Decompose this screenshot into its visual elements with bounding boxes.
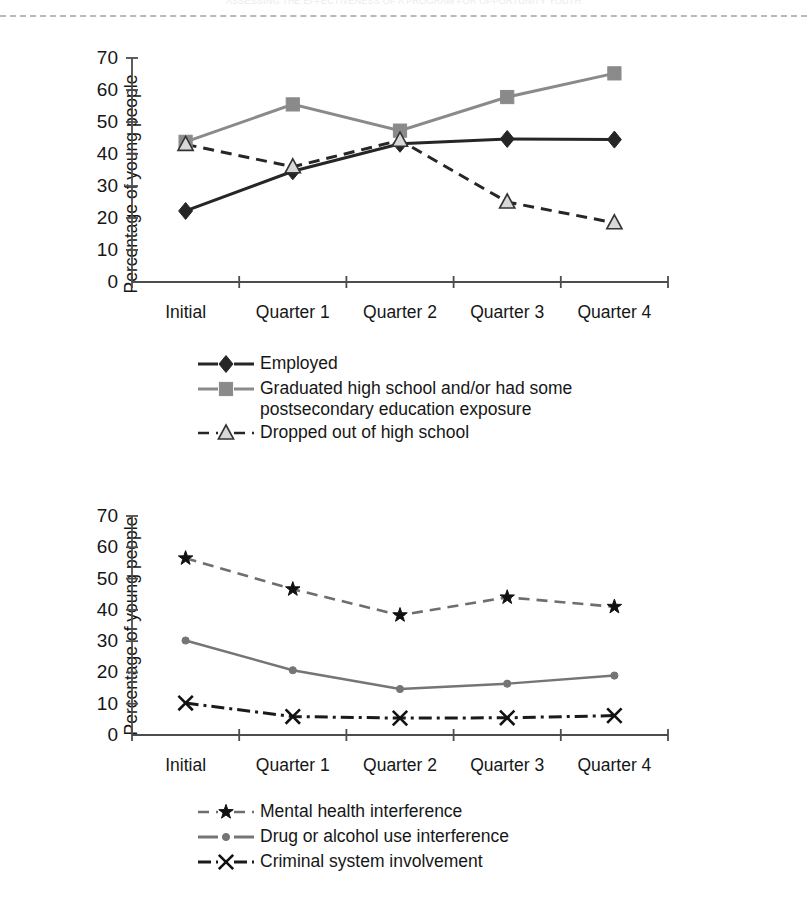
legend-item: Drug or alcohol use interference (0, 825, 807, 849)
triangle-marker-icon (196, 421, 260, 445)
chart-1-legend: EmployedGraduated high school and/or had… (0, 352, 807, 446)
running-head: ASSESSING THE EFFECTIVENESS OF A PROGRAM… (0, 0, 807, 5)
x-tick-label: Quarter 1 (256, 755, 330, 776)
legend-label: Mental health interference (260, 800, 462, 822)
legend-item: Dropped out of high school (0, 421, 807, 445)
x-tick-label: Quarter 3 (470, 302, 544, 323)
x-tick-label: Quarter 3 (470, 755, 544, 776)
circle-marker-icon (196, 825, 260, 849)
legend-label: Criminal system involvement (260, 850, 483, 872)
x-tick-label: Quarter 1 (256, 302, 330, 323)
x-tick-label: Initial (165, 755, 206, 776)
square-marker-icon (196, 377, 260, 401)
x-tick-label: Quarter 4 (577, 755, 651, 776)
chart-2-svg (0, 478, 807, 773)
header-divider (0, 15, 807, 17)
chart-1-svg (0, 34, 807, 334)
x-tick-label: Quarter 2 (363, 302, 437, 323)
figure-page: ASSESSING THE EFFECTIVENESS OF A PROGRAM… (0, 0, 807, 921)
x-marker-icon (196, 850, 260, 874)
chart-2-plot-area: Percentage of young people 0102030405060… (0, 478, 807, 773)
chart-2-legend: Mental health interferenceDrug or alcoho… (0, 800, 807, 875)
x-tick-label: Quarter 2 (363, 755, 437, 776)
diamond-marker-icon (196, 352, 260, 376)
legend-item: Graduated high school and/or had some po… (0, 377, 807, 420)
legend-label: Employed (260, 352, 338, 374)
x-tick-label: Quarter 4 (577, 302, 651, 323)
legend-item: Criminal system involvement (0, 850, 807, 874)
star-marker-icon (196, 800, 260, 824)
legend-label: Drug or alcohol use interference (260, 825, 509, 847)
x-tick-label: Initial (165, 302, 206, 323)
legend-item: Employed (0, 352, 807, 376)
chart-2: Percentage of young people 0102030405060… (0, 478, 807, 773)
chart-1-plot-area: Percentage of young people 0102030405060… (0, 34, 807, 334)
legend-item: Mental health interference (0, 800, 807, 824)
chart-1: Percentage of young people 0102030405060… (0, 34, 807, 334)
legend-label: Dropped out of high school (260, 421, 469, 443)
legend-label: Graduated high school and/or had some po… (260, 377, 660, 420)
